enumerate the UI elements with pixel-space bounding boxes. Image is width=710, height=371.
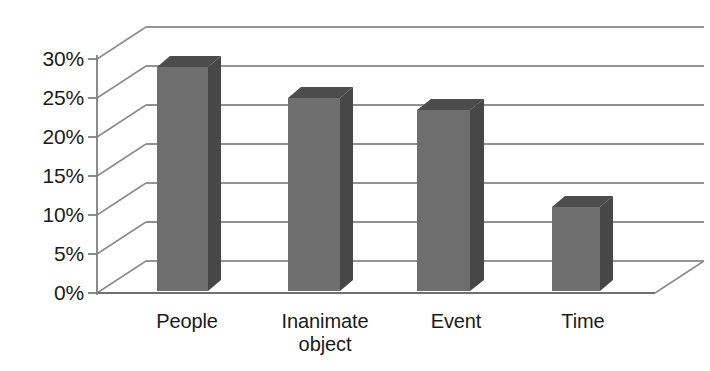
bar-people — [157, 56, 221, 291]
y-tick-label-0: 0% — [0, 282, 84, 303]
bar-time-side — [600, 196, 613, 291]
bar-event — [417, 99, 484, 291]
y-tick-label-10: 10% — [0, 204, 84, 225]
y-tick-label-5: 5% — [0, 243, 84, 264]
bar-time — [552, 196, 613, 291]
category-label-inanimate-object-line2: object — [299, 333, 352, 355]
category-label-inanimate-object-line1: Inanimate — [282, 310, 369, 332]
y-axis-group — [88, 55, 97, 295]
bar-event-front — [417, 110, 470, 291]
floor-right-depth-edge — [655, 261, 704, 293]
bar-time-front — [552, 207, 600, 291]
category-label-people: People — [107, 310, 267, 333]
y-tick-label-20: 20% — [0, 126, 84, 147]
bar-chart: 30% 25% 20% 15% 10% 5% 0% People Inanima… — [0, 0, 710, 371]
depth-line-5 — [97, 222, 146, 254]
depth-connectors-group — [97, 27, 146, 293]
depth-line-30 — [97, 27, 146, 59]
bar-event-side — [470, 99, 484, 291]
y-tick-label-25: 25% — [0, 87, 84, 108]
depth-line-15 — [97, 144, 146, 176]
depth-line-25 — [97, 66, 146, 98]
depth-line-10 — [97, 183, 146, 215]
y-tick-label-15: 15% — [0, 165, 84, 186]
bar-inanimate-object-front — [288, 98, 340, 291]
bar-inanimate-object-side — [340, 87, 353, 291]
bar-people-side — [208, 56, 221, 291]
y-tick-label-30: 30% — [0, 48, 84, 69]
bar-people-front — [157, 67, 208, 291]
category-label-time: Time — [503, 310, 663, 333]
depth-line-20 — [97, 105, 146, 137]
depth-line-0 — [97, 261, 146, 293]
bar-inanimate-object — [288, 87, 353, 291]
